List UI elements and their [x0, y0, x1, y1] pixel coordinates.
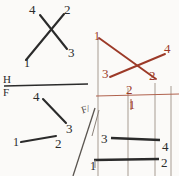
segment-3-4-aux	[110, 54, 165, 77]
label-bl-1: 1	[13, 136, 19, 148]
segment-4-3	[40, 15, 67, 49]
reference-line-red	[96, 94, 179, 96]
label-tl-3: 3	[68, 46, 75, 59]
label-bl-3: 3	[66, 122, 73, 135]
label-tr-1: 1	[94, 30, 100, 42]
label-br-2: 2	[161, 156, 168, 169]
label-red-2: 2	[126, 83, 133, 96]
label-tr-4: 4	[164, 42, 171, 55]
fold-line-hf	[4, 84, 88, 86]
segment-1-2-aux2	[94, 159, 159, 160]
label-br-4: 4	[162, 140, 169, 153]
sketch-canvas	[0, 0, 179, 176]
label-br-3: 3	[101, 132, 108, 145]
fold-label-f: F	[3, 87, 9, 98]
label-bl-4: 4	[33, 90, 40, 103]
label-tl-2: 2	[64, 3, 71, 16]
label-br-1: 1	[90, 160, 96, 172]
label-bl-2: 2	[55, 137, 62, 150]
label-tr-3: 3	[102, 67, 109, 80]
label-tl-1: 1	[24, 57, 30, 69]
segment-4-3-front	[43, 99, 66, 123]
sketch-sheet: H F F/ 1 2 3 4 4 3 1 2 1 4 3 2 2 1 3 4 1…	[0, 0, 179, 176]
top-left-segments	[26, 14, 67, 60]
segment-3-4-aux2	[111, 138, 160, 140]
segment-1-2-front	[21, 136, 56, 142]
fold-label-h: H	[3, 74, 11, 85]
label-red-1: 1	[129, 99, 135, 111]
label-tl-4: 4	[29, 3, 36, 16]
label-tr-2: 2	[149, 69, 156, 82]
